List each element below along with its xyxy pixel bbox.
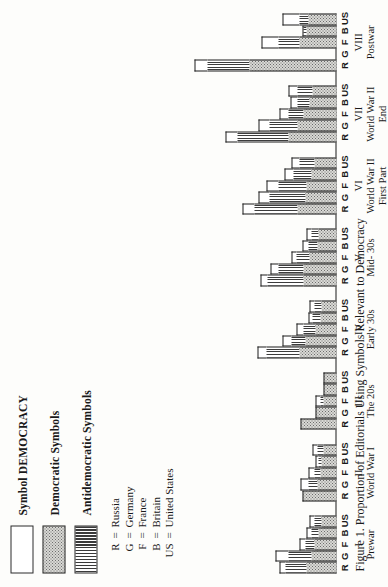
bar-segment-democratic — [317, 240, 337, 252]
chart-bar — [288, 85, 336, 97]
bar-segment-antidemocratic — [254, 203, 298, 215]
axis-tick-us: US — [338, 13, 349, 25]
bar-segment-antidemocratic — [288, 550, 311, 562]
bar-segment-symbol-democracy — [290, 96, 298, 108]
bar-segment-antidemocratic — [297, 85, 312, 97]
chart-bar — [312, 444, 336, 456]
bar-segment-symbol-democracy — [282, 335, 291, 347]
axis-tick-r: R — [338, 561, 349, 573]
bar-segment-antidemocratic — [267, 274, 303, 286]
bar-segment-symbol-democracy — [315, 395, 320, 407]
chart-bar — [257, 346, 337, 358]
legend-swatch-white — [10, 525, 33, 573]
chart-group-bars — [186, 228, 336, 286]
bar-segment-antidemocratic — [312, 312, 320, 324]
bar-segment-democratic — [318, 527, 336, 539]
bar-segment-symbol-democracy — [258, 191, 269, 203]
chart-group-bars — [186, 157, 336, 215]
figure-caption: Figure 1. Proportion of Editorials Using… — [352, 15, 367, 571]
bar-segment-symbol-democracy — [308, 467, 314, 479]
axis-tick-r: R — [338, 418, 349, 430]
country-key-equals: = — [149, 527, 163, 543]
bar-segment-democratic — [299, 346, 337, 358]
chart-bar — [300, 418, 336, 430]
bar-segment-democratic — [311, 168, 337, 180]
country-key-row: G=Germany — [122, 468, 136, 563]
chart-bar — [275, 550, 337, 562]
legend-label-antidemocratic-symbols: Antidemocratic Symbols — [80, 390, 92, 515]
bar-segment-antidemocratic — [314, 467, 320, 479]
bar-segment-democratic — [308, 13, 337, 25]
bar-segment-democratic — [300, 418, 336, 430]
bar-segment-symbol-democracy — [291, 251, 296, 263]
bar-segment-antidemocratic — [302, 25, 307, 37]
bar-segment-antidemocratic — [278, 263, 304, 275]
bar-segment-antidemocratic — [308, 240, 317, 252]
axis-tick-f: F — [338, 538, 349, 550]
chart-bar — [309, 300, 336, 312]
bar-segment-symbol-democracy — [306, 527, 311, 539]
axis-tick-g: G — [338, 48, 349, 60]
chart-bar — [279, 108, 336, 120]
bar-segment-symbol-democracy — [260, 274, 268, 286]
axis-tick-f: F — [338, 395, 349, 407]
bar-segment-symbol-democracy — [312, 444, 317, 456]
bar-segment-antidemocratic — [311, 527, 319, 539]
chart-bar — [290, 96, 337, 108]
country-key-row: F=France — [135, 468, 149, 563]
axis-tick-us: US — [338, 372, 349, 384]
axis-tick-f: F — [338, 323, 349, 335]
bar-segment-symbol-democracy — [282, 13, 299, 25]
bar-segment-antidemocratic — [269, 191, 305, 203]
chart-bar — [302, 490, 337, 502]
bar-segment-democratic — [321, 515, 336, 527]
legend-swatch-vertical-lines — [74, 525, 97, 573]
legend-item-antidemocratic-symbols: Antidemocratic Symbols — [74, 358, 97, 573]
chart-group-bars — [186, 300, 336, 358]
bar-segment-democratic — [288, 131, 336, 143]
axis-tick-us: US — [338, 515, 349, 527]
bar-segment-symbol-democracy — [308, 312, 313, 324]
axis-tick-f: F — [338, 180, 349, 192]
chart-group: RGFBUSVMid- 30s — [186, 228, 336, 286]
bar-segment-antidemocratic — [299, 157, 314, 169]
axis-tick-r: R — [338, 346, 349, 358]
axis-tick-g: G — [338, 119, 349, 131]
bar-segment-symbol-democracy — [258, 119, 269, 131]
chart-group-name-line2: End — [376, 85, 388, 143]
axis-tick-b: B — [338, 312, 349, 324]
chart-bar — [279, 561, 336, 573]
bar-segment-democratic — [317, 478, 337, 490]
bar-segment-symbol-democracy — [306, 228, 311, 240]
axis-tick-f: F — [338, 251, 349, 263]
bar-segment-democratic — [303, 108, 336, 120]
chart-bar — [194, 59, 337, 71]
chart-group-name-line2: First Part — [376, 157, 388, 215]
bar-segment-antidemocratic — [305, 538, 314, 550]
bar-segment-democratic — [306, 561, 336, 573]
country-key-equals: = — [162, 527, 176, 543]
axis-tick-g: G — [338, 478, 349, 490]
axis-tick-g: G — [338, 335, 349, 347]
axis-tick-g: G — [338, 406, 349, 418]
bar-segment-antidemocratic — [237, 131, 288, 143]
bar-segment-antidemocratic — [303, 323, 315, 335]
bar-segment-democratic — [309, 96, 336, 108]
chart-bar — [284, 168, 337, 180]
chart-bar — [308, 312, 337, 324]
bar-segment-democratic — [312, 85, 336, 97]
country-key-name: Germany — [122, 486, 136, 527]
axis-tick-us: US — [338, 157, 349, 169]
bar-segment-antidemocratic — [269, 119, 298, 131]
chart-group-tick-labels: RGFBUS — [338, 300, 349, 358]
chart-bar — [323, 372, 337, 384]
axis-tick-b: B — [338, 527, 349, 539]
chart-bar — [291, 157, 336, 169]
axis-tick-f: F — [338, 467, 349, 479]
bar-segment-antidemocratic — [299, 13, 308, 25]
country-key-abbr: F — [135, 543, 149, 563]
axis-tick-f: F — [338, 108, 349, 120]
chart-group-tick-labels: RGFBUS — [338, 444, 349, 502]
chart-group-tick-labels: RGFBUS — [338, 13, 349, 71]
